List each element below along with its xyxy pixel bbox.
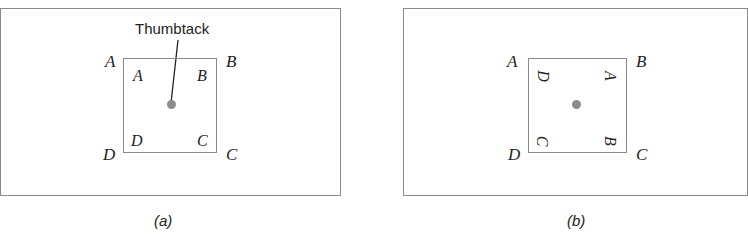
panel-a-inner-label-bl: D [131, 133, 143, 149]
panel-b-inner-label-bl: C [534, 136, 550, 147]
panel-a-inner-label-tl: A [133, 68, 143, 84]
panel-b-outer-label-bl: D [508, 146, 520, 163]
panel-a-outer-label-br: C [226, 146, 237, 163]
panel-a-inner-label-tr: B [197, 68, 207, 84]
panel-b-outer-label-tr: B [636, 53, 646, 70]
thumbtack-dot [572, 100, 581, 109]
panel-b-caption: (b) [567, 212, 585, 229]
panel-b-inner-label-tr: A [602, 71, 618, 81]
panel-a-inner-label-br: C [197, 133, 208, 149]
panel-a-outer-label-tl: A [105, 53, 115, 70]
panel-b-inner-label-br: B [602, 136, 618, 146]
panel-a-caption: (a) [154, 212, 172, 229]
panel-b-outer-label-br: C [636, 146, 647, 163]
thumbtack-dot [167, 100, 176, 109]
panel-b-inner-label-tl: D [535, 70, 551, 82]
panel-b-outer-label-tl: A [507, 53, 517, 70]
panel-a-outer-label-bl: D [103, 146, 115, 163]
panel-a-outer-label-tr: B [226, 53, 236, 70]
